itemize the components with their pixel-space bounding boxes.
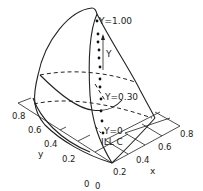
y-tick-0.8: 0.8 xyxy=(12,111,26,121)
color-solid-diagram: Y=1.00 Y Y=0.30 Y=0 ILL C 0 0.2 0.4 0.6 … xyxy=(0,0,203,191)
label-y-top: Y=1.00 xyxy=(98,16,132,26)
y-arrow xyxy=(101,34,105,70)
y-tick-0.4: 0.4 xyxy=(44,139,58,149)
axis-label-y: y xyxy=(38,149,44,159)
x-tick-0.8: 0.8 xyxy=(180,129,194,139)
y-tick-0.2: 0.2 xyxy=(62,154,76,164)
label-y-bottom: Y=0 xyxy=(103,126,123,136)
label-y-mid: Y=0.30 xyxy=(104,92,138,102)
x-tick-0.4: 0.4 xyxy=(136,155,150,165)
x-tick-0.2: 0.2 xyxy=(113,167,127,177)
label-axis-Y: Y xyxy=(105,49,112,59)
y-tick-0: 0 xyxy=(84,179,89,189)
axis-label-x: x xyxy=(150,166,156,176)
label-illuminant: ILL C xyxy=(101,137,123,147)
x-tick-0.6: 0.6 xyxy=(158,142,172,152)
cross-sections xyxy=(34,72,152,133)
x-tick-0: 0 xyxy=(95,181,100,191)
y-tick-0.6: 0.6 xyxy=(28,125,42,135)
